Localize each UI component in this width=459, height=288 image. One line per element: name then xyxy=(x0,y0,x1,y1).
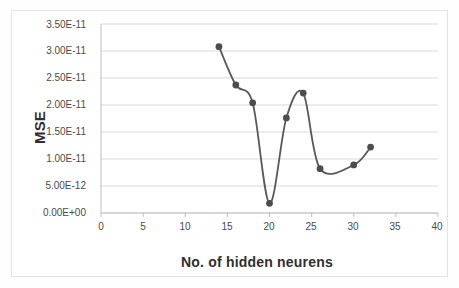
series-line-mse xyxy=(219,47,371,204)
gridline-group xyxy=(101,24,438,213)
data-point-marker xyxy=(350,162,357,169)
series-marker-group xyxy=(216,43,374,206)
axis-group xyxy=(101,24,438,217)
chart-plot-frame: MSE No. of hidden neurens 3.50E-11 3.00E… xyxy=(11,10,448,277)
data-point-marker xyxy=(283,115,290,122)
data-point-marker xyxy=(249,99,256,106)
data-point-marker xyxy=(300,90,307,97)
data-point-marker xyxy=(317,165,324,172)
data-point-marker xyxy=(232,82,239,89)
data-point-marker xyxy=(367,144,374,151)
chart-canvas xyxy=(12,11,449,278)
data-point-marker xyxy=(266,200,273,207)
chart-figure: MSE No. of hidden neurens 3.50E-11 3.00E… xyxy=(0,0,459,288)
data-point-marker xyxy=(216,43,223,50)
